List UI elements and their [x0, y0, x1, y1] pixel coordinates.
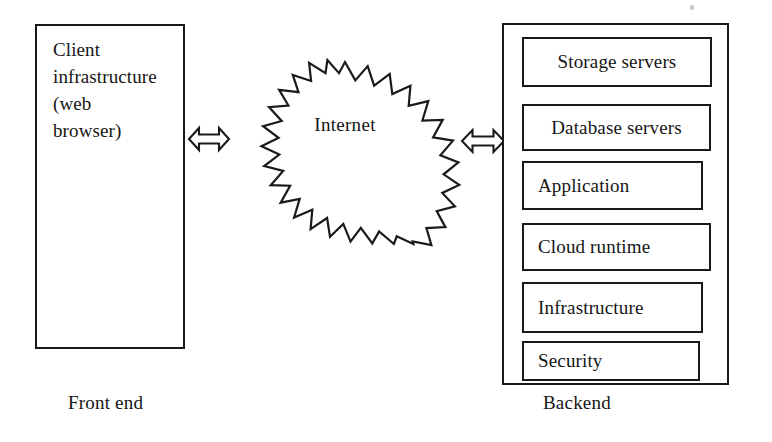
internet-to-backend-arrow [461, 125, 505, 157]
backend-layer-application-label: Application [538, 175, 629, 197]
client-infrastructure-label: Client infrastructure (web browser) [53, 36, 179, 144]
internet-cloud: Internet [222, 60, 468, 246]
backend-layer-security-label: Security [538, 350, 603, 372]
backend-layer-cloud-runtime-label: Cloud runtime [538, 236, 650, 258]
client-infrastructure-box: Client infrastructure (web browser) [35, 24, 185, 349]
internet-label: Internet [222, 114, 468, 136]
front-end-caption: Front end [68, 392, 143, 414]
backend-layer-cloud-runtime: Cloud runtime [522, 223, 711, 271]
backend-layer-security: Security [522, 341, 700, 381]
backend-layer-application: Application [522, 161, 703, 210]
backend-caption: Backend [543, 392, 611, 414]
backend-layer-storage-servers: Storage servers [522, 37, 712, 87]
backend-layer-database-servers: Database servers [522, 104, 711, 151]
backend-layer-storage-servers-label: Storage servers [558, 51, 677, 73]
scan-artifact-speck [689, 4, 694, 10]
architecture-diagram: Client infrastructure (web browser) Fron… [0, 0, 772, 442]
backend-layer-infrastructure-label: Infrastructure [538, 297, 644, 319]
backend-layer-infrastructure: Infrastructure [522, 282, 703, 333]
backend-layer-database-servers-label: Database servers [551, 117, 682, 139]
